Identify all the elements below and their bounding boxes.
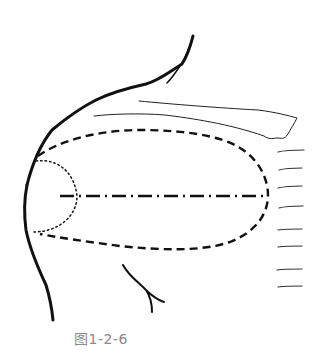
- arm-contour: [25, 185, 53, 320]
- axilla-fold: [123, 265, 164, 312]
- rib-marks: [277, 150, 304, 287]
- neck-contour: [27, 36, 193, 185]
- shoulder-diagram: [0, 0, 324, 354]
- dashed-region: [38, 130, 268, 249]
- figure-caption: 图1-2-6: [74, 328, 128, 348]
- neck-spike: [167, 36, 193, 83]
